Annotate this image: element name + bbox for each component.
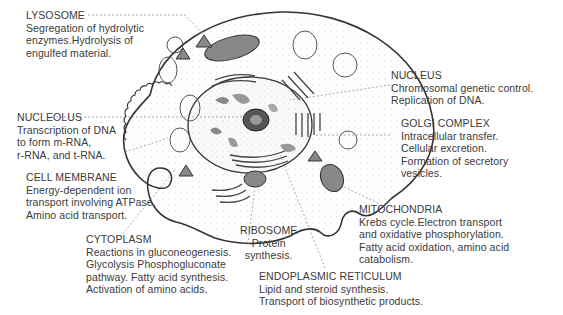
label-lysosome: LYSOSOME Segregation of hydrolytic enzym… bbox=[26, 9, 144, 59]
label-nucleus: NUCLEUS Chromosomal genetic control. Rep… bbox=[391, 69, 533, 107]
label-ribosome: RIBOSOME Protein synthesis. bbox=[240, 224, 297, 262]
label-nucleolus: NUCLEOLUS Transcription of DNA to form m… bbox=[17, 111, 116, 161]
label-endoplasmic-reticulum: ENDOPLASMIC RETICULUM Lipid and steroid … bbox=[259, 270, 423, 308]
label-golgi-complex: GOLGI COMPLEX Intracellular transfer. Ce… bbox=[401, 117, 508, 180]
label-cell-membrane: CELL MEMBRANE Energy-dependent ion trans… bbox=[26, 171, 156, 221]
label-cytoplasm: CYTOPLASM Reactions in gluconeogenesis. … bbox=[86, 233, 231, 296]
label-title: LYSOSOME bbox=[26, 9, 144, 22]
label-mitochondria: MITOCHONDRIA Krebs cycle.Electron transp… bbox=[359, 203, 509, 266]
